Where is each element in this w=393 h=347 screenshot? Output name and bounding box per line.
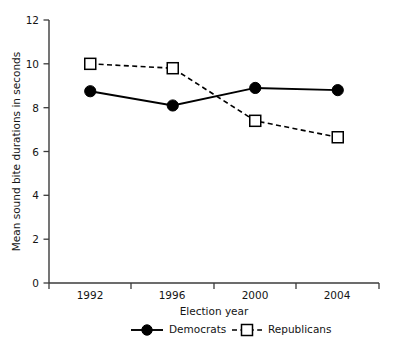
legend-item-democrats[interactable]: Democrats: [131, 323, 226, 335]
legend-label-republicans: Republicans: [268, 323, 331, 335]
line-chart: 12 10 8 6 4 2 0 Mean sound bite duration…: [0, 0, 393, 347]
open-square-icon: [242, 325, 253, 336]
chart-figure: 12 10 8 6 4 2 0 Mean sound bite duration…: [0, 0, 393, 347]
filled-circle-icon: [332, 85, 343, 96]
x-tick-label-2000: 2000: [242, 289, 269, 301]
y-tick-label-12: 12: [26, 14, 39, 26]
open-square-icon: [85, 58, 96, 69]
legend-item-republicans[interactable]: Republicans: [232, 323, 331, 336]
y-tick-label-8: 8: [32, 102, 39, 114]
open-square-icon: [250, 115, 261, 126]
series-layer: [85, 58, 344, 142]
y-tick-label-6: 6: [32, 146, 39, 158]
y-axis: 12 10 8 6 4 2 0 Mean sound bite duration…: [10, 14, 49, 289]
filled-circle-icon: [85, 86, 96, 97]
y-tick-label-2: 2: [32, 233, 39, 245]
x-axis: 1992 1996 2000 2004 Election year: [49, 283, 379, 317]
series-line-democrats: [90, 88, 338, 106]
x-tick-label-1992: 1992: [77, 289, 104, 301]
x-tick-label-2004: 2004: [324, 289, 351, 301]
open-square-icon: [167, 63, 178, 74]
series-democrats: [85, 82, 344, 111]
series-republicans: [85, 58, 344, 142]
filled-circle-icon: [167, 100, 178, 111]
y-tick-label-4: 4: [32, 189, 39, 201]
y-axis-title: Mean sound bite durations in seconds: [10, 52, 22, 251]
filled-circle-icon: [142, 325, 152, 335]
y-tick-label-10: 10: [26, 58, 39, 70]
filled-circle-icon: [250, 82, 261, 93]
open-square-icon: [332, 132, 343, 143]
y-tick-label-0: 0: [32, 277, 39, 289]
series-line-republicans: [90, 64, 338, 137]
legend-label-democrats: Democrats: [169, 323, 226, 335]
x-axis-title: Election year: [180, 305, 249, 317]
x-tick-label-1996: 1996: [159, 289, 186, 301]
chart-legend: Democrats Republicans: [131, 323, 331, 336]
